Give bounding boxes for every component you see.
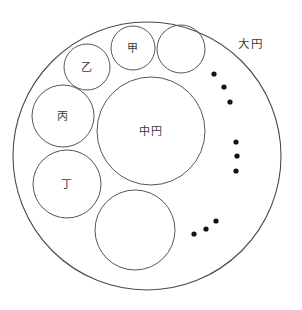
- outer-circle-daien: [13, 22, 281, 290]
- inner-circle-unlabeled-bottom: [95, 190, 175, 270]
- lower-right-ellipsis-dot-3: [213, 218, 218, 223]
- lower-right-ellipsis: [191, 218, 218, 236]
- right-ellipsis-dot-2: [234, 153, 239, 158]
- upper-right-ellipsis-dot-1: [211, 71, 216, 76]
- upper-right-ellipsis: [211, 71, 232, 104]
- inner-circles-group: [32, 25, 205, 270]
- circle-label-tei: 丁: [61, 178, 73, 191]
- right-ellipsis: [233, 139, 239, 173]
- diagram-canvas: 中円甲乙丙丁大円: [0, 0, 302, 310]
- upper-right-ellipsis-dot-3: [227, 99, 232, 104]
- sangaku-circle-diagram: 中円甲乙丙丁大円: [0, 0, 302, 310]
- outer-circle-label-daien: 大円: [238, 37, 263, 51]
- circle-label-kou: 甲: [127, 42, 139, 55]
- ellipsis-dots-group: [191, 71, 239, 236]
- right-ellipsis-dot-3: [233, 168, 238, 173]
- circle-label-hei: 丙: [57, 110, 69, 123]
- inner-circle-unlabeled-top-right: [157, 25, 205, 73]
- lower-right-ellipsis-dot-2: [203, 226, 208, 231]
- lower-right-ellipsis-dot-1: [191, 231, 196, 236]
- upper-right-ellipsis-dot-2: [221, 84, 226, 89]
- outer-circle-group: [13, 22, 281, 290]
- right-ellipsis-dot-1: [233, 139, 238, 144]
- circle-label-middle: 中円: [139, 125, 163, 138]
- circle-label-otsu: 乙: [81, 61, 93, 74]
